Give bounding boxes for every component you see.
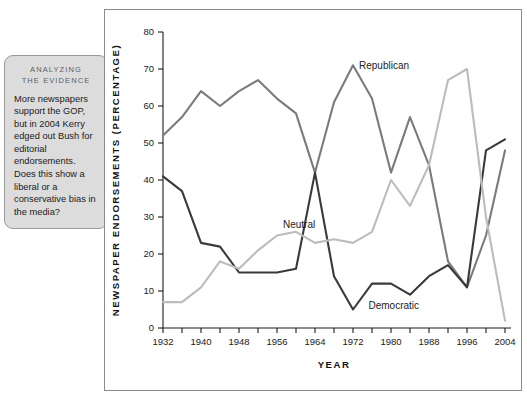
x-tick-label: 2004	[494, 336, 515, 347]
x-tick-label: 1988	[418, 336, 439, 347]
analyzing-the-evidence-callout: ANALYZING THE EVIDENCE More newspapers s…	[4, 55, 108, 229]
x-tick-label: 1948	[228, 336, 249, 347]
y-tick-label: 80	[143, 26, 154, 37]
x-tick-label: 1972	[342, 336, 363, 347]
x-tick-label: 1932	[152, 336, 173, 347]
series-label-democratic: Democratic	[369, 300, 420, 311]
x-tick-label: 1964	[304, 336, 325, 347]
data-series	[163, 65, 505, 320]
callout-body-text: More newspapers support the GOP, but in …	[14, 93, 98, 218]
y-tick-label: 40	[143, 174, 154, 185]
x-axis-title: YEAR	[318, 359, 351, 370]
y-tick-label: 30	[143, 211, 154, 222]
endorsements-line-chart: 0102030405060708019321940194819561964197…	[105, 10, 521, 390]
callout-title-line2: THE EVIDENCE	[14, 76, 98, 87]
callout-title-line1: ANALYZING	[14, 65, 98, 76]
y-tick-label: 70	[143, 63, 154, 74]
callout-title: ANALYZING THE EVIDENCE	[14, 65, 98, 87]
series-labels: RepublicanDemocraticNeutral	[283, 60, 419, 311]
series-label-republican: Republican	[359, 60, 409, 71]
y-tick-label: 10	[143, 285, 154, 296]
x-tick-label: 1956	[266, 336, 287, 347]
x-tick-label: 1980	[380, 336, 401, 347]
x-tick-label: 1996	[456, 336, 477, 347]
chart-frame: 0102030405060708019321940194819561964197…	[104, 9, 522, 391]
y-tick-label: 20	[143, 248, 154, 259]
y-tick-label: 0	[149, 322, 154, 333]
series-line-democratic	[163, 139, 505, 309]
y-tick-label: 50	[143, 137, 154, 148]
x-tick-label: 1940	[190, 336, 211, 347]
axes: 0102030405060708019321940194819561964197…	[143, 26, 515, 347]
y-tick-label: 60	[143, 100, 154, 111]
y-axis-title: NEWSPAPER ENDORSEMENTS (PERCENTAGE)	[110, 44, 121, 316]
series-label-neutral: Neutral	[283, 219, 315, 230]
series-line-neutral	[163, 69, 505, 321]
series-line-republican	[163, 65, 505, 287]
axis-titles: NEWSPAPER ENDORSEMENTS (PERCENTAGE)YEAR	[110, 44, 350, 370]
